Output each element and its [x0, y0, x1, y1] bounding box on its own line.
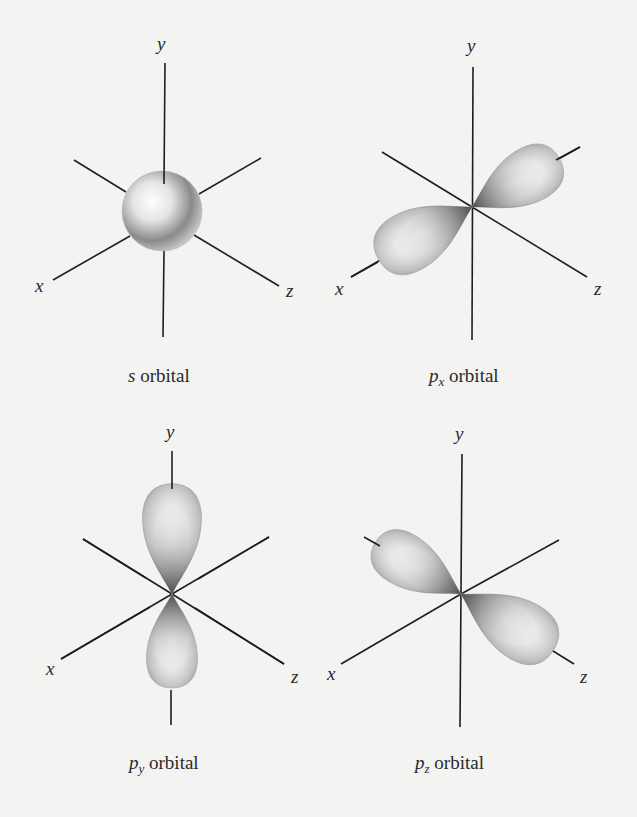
upper-left-axis	[74, 160, 126, 192]
y-axis-label: y	[164, 421, 175, 442]
y-axis-top	[164, 63, 165, 183]
x-axis	[341, 594, 461, 664]
z-axis	[472, 207, 587, 277]
z-axis-label: z	[290, 666, 299, 687]
y-axis-label: y	[155, 33, 166, 54]
x-axis	[53, 236, 130, 280]
x-axis-label: x	[45, 658, 55, 679]
z-axis	[194, 235, 279, 286]
upper-left-axis-front	[83, 539, 146, 578]
caption-pz-orbital: pz orbital	[413, 752, 484, 777]
z-axis-tip	[553, 651, 574, 664]
upper-right-axis	[461, 540, 559, 594]
py-lobe-bottom	[147, 594, 198, 688]
py-lobe-top	[143, 484, 202, 594]
panel-py-orbital: y x z py orbital	[45, 421, 299, 777]
panel-pz-orbital: y x z pz orbital	[326, 423, 588, 777]
axes	[351, 67, 587, 340]
caption-s-orbital: s orbital	[128, 365, 190, 386]
caption-px-orbital: px orbital	[427, 365, 499, 390]
x-axis-label: x	[326, 663, 336, 684]
px-lobe-front	[364, 181, 487, 285]
pz-lobe-front	[446, 568, 570, 675]
y-axis-label: y	[465, 35, 476, 56]
z-axis-label: z	[285, 280, 294, 301]
y-axis-bottom	[163, 250, 164, 337]
x-axis-front	[61, 607, 150, 659]
panel-s-orbital: y x z s orbital	[34, 33, 294, 386]
upper-right-axis-front	[198, 537, 269, 579]
upper-left-axis	[382, 152, 472, 207]
y-axis	[460, 454, 462, 727]
z-axis-label: z	[593, 278, 602, 299]
x-axis-label: x	[34, 275, 44, 296]
caption-py-orbital: py orbital	[127, 752, 199, 777]
pz-lobe-back	[362, 520, 475, 617]
s-orbital-sphere	[122, 171, 202, 251]
y-axis-label: y	[453, 423, 464, 444]
x-axis-tip	[351, 262, 378, 277]
upper-right-axis	[199, 158, 261, 194]
upper-right-axis-tip	[556, 147, 580, 160]
z-axis-label: z	[579, 666, 588, 687]
px-lobe-back	[459, 134, 573, 231]
y-axis	[472, 67, 473, 340]
atomic-orbitals-figure: y x z s orbital y x z px orbital	[0, 0, 637, 817]
panel-px-orbital: y x z px orbital	[334, 35, 602, 390]
z-axis-front	[195, 608, 284, 664]
x-axis-label: x	[334, 278, 344, 299]
